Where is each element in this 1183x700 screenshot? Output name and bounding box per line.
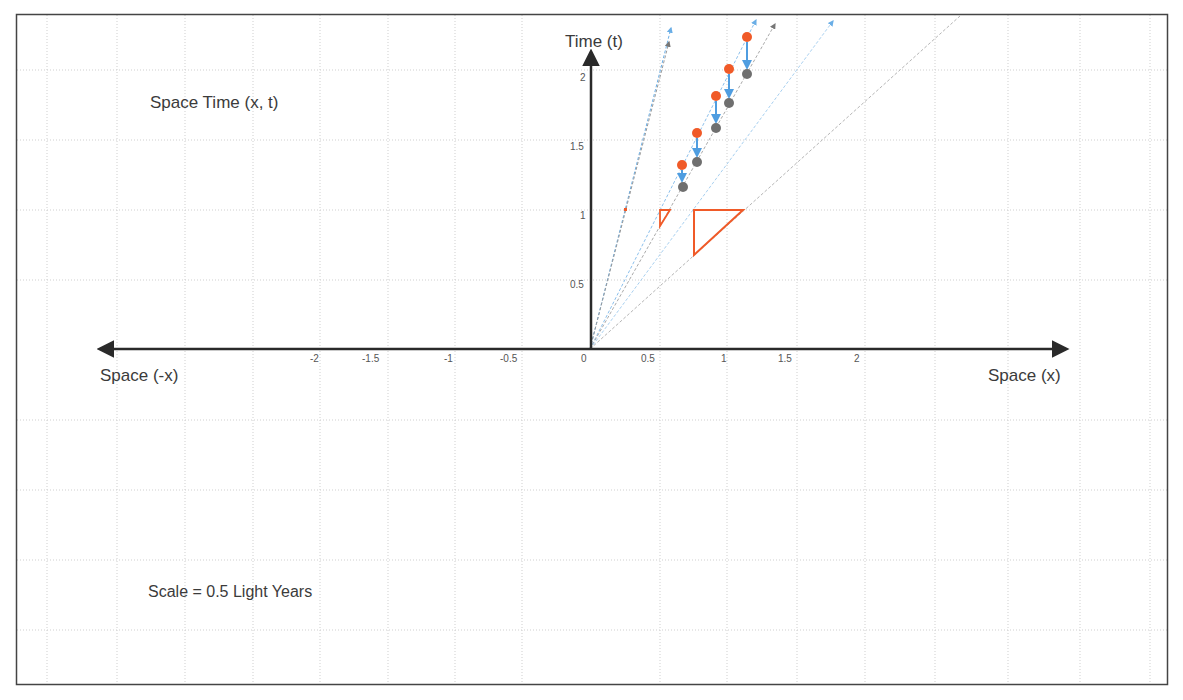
x-positive-axis-label: Space (x) (988, 366, 1061, 386)
reception-dots (678, 69, 752, 192)
emission-dots (677, 32, 752, 170)
t-tick: 0.5 (570, 279, 584, 290)
t-tick: 1 (580, 210, 586, 221)
x-tick: -1.5 (362, 353, 379, 364)
x-tick: 1 (721, 353, 727, 364)
x-negative-axis-label: Space (-x) (100, 366, 178, 386)
x-tick: -1 (444, 353, 453, 364)
x-tick: 0 (581, 353, 587, 364)
diagram-title: Space Time (x, t) (150, 93, 278, 113)
t-tick: 1.5 (570, 141, 584, 152)
triangle-small (660, 210, 670, 226)
signal-arrows (682, 42, 747, 181)
t-tick: 2 (580, 72, 586, 83)
t-axis-label: Time (t) (565, 32, 623, 52)
scale-note: Scale = 0.5 Light Years (148, 583, 312, 601)
x-tick: 1.5 (778, 353, 792, 364)
worldlines (590, 16, 960, 349)
x-tick: -0.5 (500, 353, 517, 364)
triangle-large (694, 210, 743, 255)
worldline-gray-1 (590, 42, 669, 349)
x-tick: 0.5 (641, 353, 655, 364)
worldline-blue-1 (590, 28, 671, 349)
worldline-gray-3 (590, 16, 960, 349)
x-tick: -2 (310, 353, 319, 364)
x-tick: 2 (854, 353, 860, 364)
red-marker (624, 208, 627, 211)
